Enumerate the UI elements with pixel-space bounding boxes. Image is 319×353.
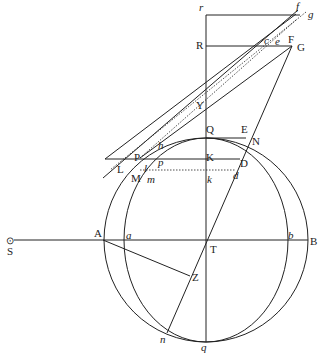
line-Gn xyxy=(167,46,292,333)
label-P: P xyxy=(134,152,140,163)
label-g: g xyxy=(308,9,314,20)
label-c: c xyxy=(264,35,269,46)
label-a: a xyxy=(126,230,132,241)
label-Z: Z xyxy=(192,272,199,283)
label-R: R xyxy=(196,40,203,51)
label-d: d xyxy=(233,170,239,181)
label-T: T xyxy=(210,244,217,255)
label-A: A xyxy=(94,228,102,239)
geometry-figure xyxy=(0,0,319,353)
label-b: b xyxy=(288,230,294,241)
label-Q: Q xyxy=(206,124,214,135)
label-M: M xyxy=(131,173,141,184)
line-AZ xyxy=(103,240,190,276)
label-B: B xyxy=(310,236,317,247)
label-K: K xyxy=(206,152,214,163)
label-m: m xyxy=(147,174,155,185)
label-k: k xyxy=(207,174,212,185)
label-L: L xyxy=(117,164,124,175)
label-r: r xyxy=(199,2,203,13)
label-D: D xyxy=(240,158,248,169)
label-p: p xyxy=(158,157,164,168)
label-q: q xyxy=(201,342,207,353)
label-S: S xyxy=(7,246,13,257)
label-N: N xyxy=(252,136,260,147)
label-e: e xyxy=(275,36,280,47)
label-E: E xyxy=(241,124,248,135)
label-F: F xyxy=(288,34,294,45)
diagram: r f g R c e F G Y h Q E N P L M l m p K … xyxy=(0,0,319,353)
label-Y: Y xyxy=(196,100,204,111)
label-G: G xyxy=(297,42,305,53)
label-n: n xyxy=(160,334,166,345)
dotted-fp xyxy=(140,20,296,158)
label-f: f xyxy=(296,1,299,12)
label-h: h xyxy=(158,140,164,151)
